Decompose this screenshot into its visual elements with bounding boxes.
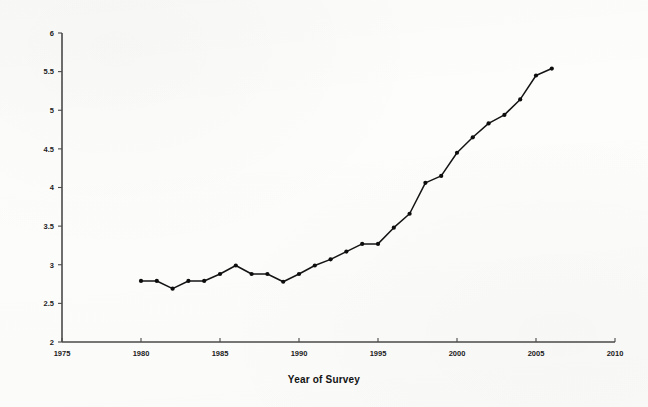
y-tick-label: 4.5 <box>44 145 54 154</box>
data-point-marker <box>408 212 412 216</box>
line-chart: 22.533.544.555.56 1975198019851990199520… <box>0 0 648 407</box>
data-point-marker <box>392 226 396 230</box>
x-axis-tick-labels: 19751980198519901995200020052010 <box>54 349 624 358</box>
y-tick-label: 2.5 <box>44 299 54 308</box>
data-point-marker <box>471 135 475 139</box>
data-point-marker <box>297 272 301 276</box>
x-tick-label: 1975 <box>54 349 71 358</box>
data-point-marker <box>202 279 206 283</box>
x-tick-label: 1990 <box>291 349 308 358</box>
data-point-marker <box>360 242 364 246</box>
data-point-marker <box>250 272 254 276</box>
y-tick-label: 4 <box>50 183 55 192</box>
data-point-marker <box>550 66 554 70</box>
data-point-marker <box>455 151 459 155</box>
y-tick-label: 5 <box>50 106 54 115</box>
y-tick-label: 5.5 <box>44 67 54 76</box>
data-point-marker <box>139 279 143 283</box>
x-axis-title: Year of Survey <box>288 374 361 385</box>
data-point-marker <box>329 257 333 261</box>
data-series-line <box>141 69 552 289</box>
x-tick-label: 1995 <box>370 349 387 358</box>
chart-figure: 22.533.544.555.56 1975198019851990199520… <box>0 0 648 407</box>
data-point-marker <box>344 250 348 254</box>
x-tick-label: 2005 <box>528 349 545 358</box>
data-point-marker <box>502 113 506 117</box>
data-point-marker <box>439 174 443 178</box>
data-point-markers <box>139 66 554 290</box>
x-tick-label: 1980 <box>133 349 150 358</box>
x-tick-label: 2000 <box>449 349 466 358</box>
data-point-marker <box>518 97 522 101</box>
y-tick-label: 3 <box>50 261 54 270</box>
data-point-marker <box>487 121 491 125</box>
data-point-marker <box>534 73 538 77</box>
data-point-marker <box>376 242 380 246</box>
x-tick-label: 1985 <box>212 349 229 358</box>
y-tick-label: 3.5 <box>44 222 54 231</box>
data-point-marker <box>265 272 269 276</box>
data-point-marker <box>234 263 238 267</box>
y-tick-label: 6 <box>50 29 54 38</box>
data-point-marker <box>313 263 317 267</box>
data-point-marker <box>171 287 175 291</box>
data-point-marker <box>423 181 427 185</box>
y-tick-label: 2 <box>50 338 54 347</box>
y-axis-tick-labels: 22.533.544.555.56 <box>44 29 55 347</box>
data-point-marker <box>281 280 285 284</box>
data-point-marker <box>155 279 159 283</box>
data-point-marker <box>186 279 190 283</box>
x-tick-label: 2010 <box>607 349 624 358</box>
data-point-marker <box>218 272 222 276</box>
